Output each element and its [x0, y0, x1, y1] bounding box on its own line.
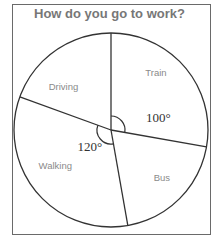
angle-label-train: 100° [146, 110, 171, 125]
slice-label-train: Train [145, 67, 166, 78]
angle-label-walking: 120° [77, 139, 102, 154]
slice-label-walking: Walking [39, 160, 72, 171]
slice-label-driving: Driving [49, 81, 79, 92]
pie-chart: TrainBusWalkingDriving100°120° [0, 0, 219, 242]
slice-label-bus: Bus [154, 172, 171, 183]
